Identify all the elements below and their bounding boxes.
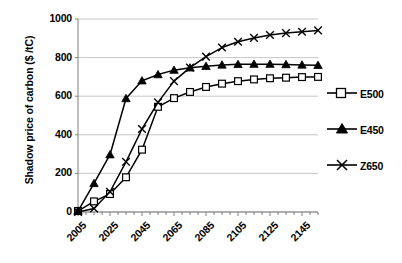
data-point-open-square (283, 74, 290, 81)
y-tick-label: 400 (32, 128, 72, 140)
legend-label-2: Z650 (360, 160, 383, 172)
legend-label-0: E500 (360, 88, 384, 100)
chart-container: Shadow price of carbon ($ /tC) 020040060… (0, 0, 402, 263)
data-point-open-square (203, 84, 210, 91)
y-tick-label: 1000 (32, 12, 72, 24)
data-series-group (74, 27, 322, 216)
data-point-open-square (91, 198, 98, 205)
x-tick-marks-group (78, 212, 318, 216)
data-point-open-square (251, 76, 258, 83)
y-tick-label: 800 (32, 51, 72, 63)
legend-marker-cross-x-icon (326, 158, 358, 172)
axis-lines-group (75, 19, 318, 212)
data-point-open-square (187, 89, 194, 96)
legend-label-1: E450 (360, 124, 384, 136)
y-tick-label: 200 (32, 166, 72, 178)
data-point-open-square (139, 146, 146, 153)
data-point-open-square (235, 78, 242, 85)
data-point-open-square (171, 95, 178, 102)
data-point-open-square (315, 74, 322, 81)
y-tick-label: 600 (32, 89, 72, 101)
data-point-filled-triangle (106, 150, 114, 157)
data-point-open-square (299, 74, 306, 81)
data-point-open-square (219, 80, 226, 87)
data-point-filled-triangle (90, 179, 98, 186)
legend-marker-filled-triangle-icon (326, 122, 358, 136)
data-point-open-square (123, 174, 130, 181)
legend-marker-open-square-icon (326, 86, 358, 100)
series-Z650 (74, 27, 322, 216)
data-point-open-square (267, 75, 274, 82)
y-tick-label: 0 (32, 205, 72, 217)
